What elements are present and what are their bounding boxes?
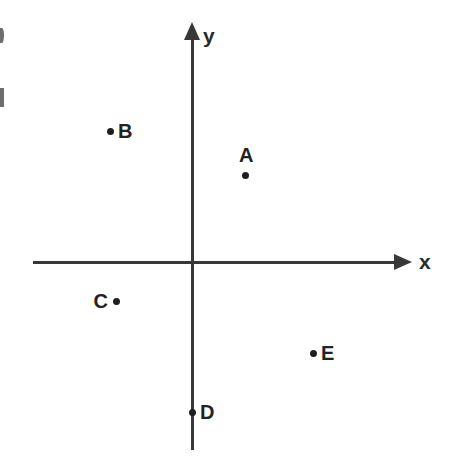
point-dot-e — [310, 350, 317, 357]
point-label-c: C — [94, 291, 108, 311]
point-dot-d — [189, 409, 196, 416]
point-dot-c — [113, 298, 120, 305]
arrow-up-icon — [184, 22, 200, 40]
x-axis-line — [33, 261, 405, 264]
point-dot-b — [107, 128, 114, 135]
x-axis-label: x — [419, 251, 431, 272]
point-label-a: A — [239, 145, 253, 165]
y-axis-line — [191, 32, 194, 450]
point-dot-a — [242, 172, 249, 179]
point-label-d: D — [200, 402, 214, 422]
clipped-glyph-top-artifact — [0, 28, 4, 43]
arrow-right-icon — [394, 254, 412, 270]
coordinate-plane-figure: y x ABCDE — [0, 0, 460, 460]
y-axis-label: y — [203, 25, 215, 46]
point-label-b: B — [118, 121, 132, 141]
clipped-glyph-lower-artifact — [0, 88, 4, 107]
point-label-e: E — [321, 343, 334, 363]
